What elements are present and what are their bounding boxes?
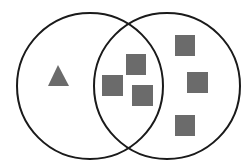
square-intersection (132, 85, 153, 106)
square-intersection (102, 75, 123, 96)
square-right-only (175, 115, 195, 136)
square-right-only (187, 72, 208, 93)
square-right-only (175, 35, 195, 56)
venn-diagram (0, 0, 251, 168)
square-intersection (126, 54, 146, 75)
